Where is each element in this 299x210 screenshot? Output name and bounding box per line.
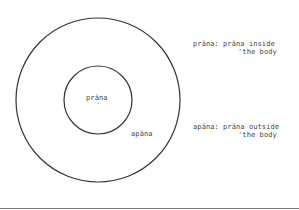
legend-apana-term: apāna: [193, 123, 219, 131]
outer-ring-label: apāna [131, 130, 153, 138]
concentric-circles-diagram [0, 0, 299, 210]
legend-prana-term: prāna: [193, 40, 219, 48]
legend-prana-definition-line1: prāna inside [223, 40, 275, 48]
bottom-divider [0, 208, 299, 209]
legend-apana-definition-line1: prāna outside [223, 123, 279, 131]
center-dot [98, 103, 99, 104]
legend-apana-definition-line2: 'the body [238, 131, 277, 139]
legend-prana-definition-line2: 'the body [238, 48, 277, 56]
inner-circle-label: prāna [86, 94, 108, 102]
